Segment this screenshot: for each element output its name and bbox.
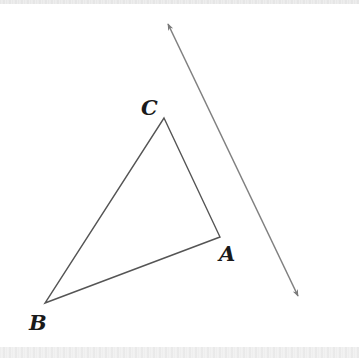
vertex-label-c: C bbox=[141, 95, 158, 120]
vertex-label-a: A bbox=[217, 241, 235, 266]
triangle-abc bbox=[45, 118, 220, 303]
triangle-diagram: C A B bbox=[0, 0, 359, 358]
vertex-label-b: B bbox=[28, 310, 47, 335]
bottom-border-band bbox=[0, 347, 359, 358]
diagram-canvas: C A B bbox=[0, 0, 359, 358]
